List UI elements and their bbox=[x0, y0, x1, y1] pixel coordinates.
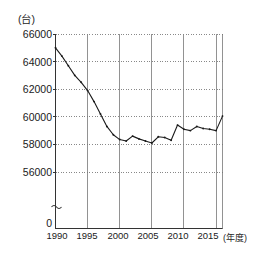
vertical-gridlines bbox=[56, 34, 217, 229]
data-line-series bbox=[56, 48, 223, 143]
axis-break-icon bbox=[52, 206, 62, 210]
plot-area bbox=[0, 0, 269, 260]
chart-container: (台) 66000 64000 62000 60000 58000 56000 … bbox=[0, 0, 269, 260]
horizontal-gridlines bbox=[56, 34, 223, 172]
axis-lines bbox=[56, 34, 223, 229]
